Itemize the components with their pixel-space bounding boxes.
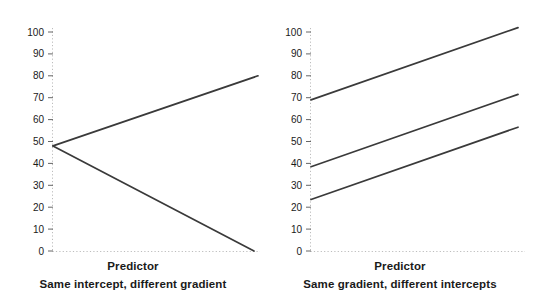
y-tick-label: 100 [285, 27, 302, 38]
caption-block-right: Predictor Same gradient, different inter… [267, 259, 533, 292]
y-tick-label: 10 [291, 224, 303, 235]
y-tick-label: 90 [291, 48, 303, 59]
data-line-middle-intercept [311, 94, 518, 166]
panel-caption-left: Same intercept, different gradient [0, 277, 266, 293]
y-tick-label: 80 [291, 70, 303, 81]
figure-container: 100 90 80 70 60 50 40 30 20 10 0 Outcome… [0, 0, 533, 302]
y-tick-label: 10 [33, 224, 45, 235]
y-tick-label: 100 [27, 27, 44, 38]
plot-area-left: 100 90 80 70 60 50 40 30 20 10 0 [0, 0, 266, 302]
y-tick-label: 20 [33, 202, 45, 213]
y-tick-marks [48, 32, 53, 251]
chart-panel-left: 100 90 80 70 60 50 40 30 20 10 0 Outcome… [0, 0, 266, 302]
data-line-low-intercept [311, 127, 518, 199]
y-tick-label: 40 [291, 158, 303, 169]
data-line-positive-gradient [53, 76, 258, 146]
y-tick-label: 20 [291, 202, 303, 213]
x-axis-title-right: Predictor [267, 259, 533, 275]
y-tick-label: 30 [33, 180, 45, 191]
y-tick-label: 70 [33, 92, 45, 103]
caption-block-left: Predictor Same intercept, different grad… [0, 259, 266, 292]
y-tick-label: 50 [33, 136, 45, 147]
y-tick-label: 0 [38, 246, 44, 257]
y-tick-label: 60 [33, 114, 45, 125]
y-tick-label: 50 [291, 136, 303, 147]
y-tick-label: 60 [291, 114, 303, 125]
y-tick-label: 80 [33, 70, 45, 81]
y-tick-label: 90 [33, 48, 45, 59]
data-line-negative-gradient [53, 146, 254, 251]
y-tick-marks [306, 32, 311, 251]
y-tick-label: 70 [291, 92, 303, 103]
panel-caption-right: Same gradient, different intercepts [267, 277, 533, 293]
plot-area-right: 100 90 80 70 60 50 40 30 20 10 0 [267, 0, 533, 302]
y-tick-label: 30 [291, 180, 303, 191]
chart-panel-right: 100 90 80 70 60 50 40 30 20 10 0 Outcome [267, 0, 533, 302]
y-tick-labels: 100 90 80 70 60 50 40 30 20 10 0 [27, 27, 44, 257]
y-tick-label: 0 [296, 246, 302, 257]
y-tick-label: 40 [33, 158, 45, 169]
data-line-high-intercept [311, 28, 518, 100]
x-axis-title-left: Predictor [0, 259, 266, 275]
y-tick-labels: 100 90 80 70 60 50 40 30 20 10 0 [285, 27, 302, 257]
